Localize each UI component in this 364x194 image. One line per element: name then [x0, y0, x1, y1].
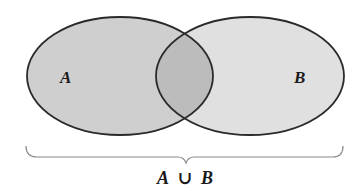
union-label: A ∪ B [156, 168, 213, 188]
union-label-left: A [156, 168, 169, 188]
union-operator: ∪ [177, 168, 192, 188]
set-a-label: A [59, 68, 71, 87]
union-label-right: B [200, 168, 213, 188]
union-brace [26, 146, 343, 163]
set-b-label: B [293, 68, 305, 87]
venn-diagram: A B A ∪ B [0, 0, 364, 194]
